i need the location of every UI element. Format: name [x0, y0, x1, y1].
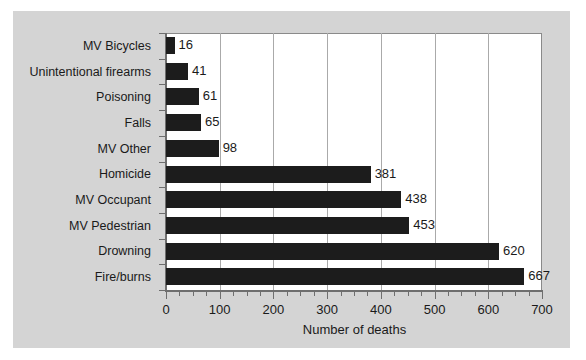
bar-value-label: 65 — [205, 112, 219, 132]
bar — [166, 37, 175, 54]
category-label: Fire/burns — [95, 269, 151, 285]
bar-value-label: 61 — [203, 86, 217, 106]
x-axis-tick-minor — [260, 292, 261, 296]
chart-figure: 1641616598381438453620667 MV BicyclesUni… — [13, 11, 570, 348]
y-axis-tick — [159, 290, 166, 291]
bar — [166, 166, 371, 183]
y-axis-tick — [159, 136, 166, 137]
x-axis-tick-label: 500 — [415, 301, 455, 319]
category-label: Unintentional firearms — [29, 64, 151, 80]
bar — [166, 63, 188, 80]
y-axis-tick — [159, 33, 166, 34]
x-axis-tick-minor — [515, 292, 516, 296]
y-axis-tick — [159, 264, 166, 265]
x-axis-tick-label: 700 — [522, 301, 562, 319]
x-axis-tick-minor — [341, 292, 342, 296]
x-axis-tick-minor — [300, 292, 301, 296]
x-axis-tick-label: 300 — [307, 301, 347, 319]
bar-value-label: 438 — [405, 189, 427, 209]
x-axis-tick-minor — [247, 292, 248, 296]
category-label: Homicide — [99, 166, 151, 182]
bar — [166, 114, 201, 131]
bar-value-label: 667 — [528, 266, 550, 286]
x-axis-tick-minor — [421, 292, 422, 296]
y-axis-tick — [159, 162, 166, 163]
bar-row: 438 — [166, 187, 542, 213]
x-axis-tick-major — [220, 292, 221, 299]
bar-row: 98 — [166, 136, 542, 162]
bar-value-label: 41 — [192, 61, 206, 81]
x-axis-tick-label: 400 — [361, 301, 401, 319]
bar — [166, 268, 524, 285]
x-axis-tick-minor — [461, 292, 462, 296]
x-axis-tick-label: 100 — [200, 301, 240, 319]
x-axis-tick-major — [381, 292, 382, 299]
bar-value-label: 16 — [179, 35, 193, 55]
x-axis-tick-label: 600 — [468, 301, 508, 319]
y-axis-tick — [159, 59, 166, 60]
category-label: Drowning — [98, 243, 151, 259]
x-axis-tick-label: 0 — [146, 301, 186, 319]
bar — [166, 140, 219, 157]
x-axis-tick-minor — [233, 292, 234, 296]
x-axis-tick-minor — [193, 292, 194, 296]
bar-row: 61 — [166, 84, 542, 110]
x-axis-tick-minor — [287, 292, 288, 296]
x-axis-tick-major — [435, 292, 436, 299]
category-label: Falls — [125, 115, 151, 131]
bar-row: 453 — [166, 213, 542, 239]
bar-value-label: 453 — [413, 215, 435, 235]
x-axis-tick-minor — [529, 292, 530, 296]
category-label: MV Occupant — [75, 192, 151, 208]
bar — [166, 243, 499, 260]
category-label: Poisoning — [96, 89, 151, 105]
bar — [166, 88, 199, 105]
bar — [166, 191, 401, 208]
bar — [166, 217, 409, 234]
y-axis-tick — [159, 239, 166, 240]
bar-value-label: 381 — [375, 164, 397, 184]
x-axis-tick-label: 200 — [253, 301, 293, 319]
category-label: MV Pedestrian — [69, 218, 151, 234]
category-label: MV Bicycles — [83, 38, 151, 54]
x-axis-tick-minor — [502, 292, 503, 296]
x-axis-tick-minor — [179, 292, 180, 296]
x-axis-tick-major — [327, 292, 328, 299]
x-axis-tick-major — [542, 292, 543, 299]
y-axis-tick — [159, 213, 166, 214]
x-axis-tick-major — [273, 292, 274, 299]
x-axis-tick-minor — [394, 292, 395, 296]
category-labels: MV BicyclesUnintentional firearmsPoisoni… — [13, 33, 159, 290]
y-axis-tick — [159, 187, 166, 188]
x-axis-tick-major — [488, 292, 489, 299]
bar-row: 16 — [166, 33, 542, 59]
bar-row: 667 — [166, 264, 542, 290]
x-axis-tick-minor — [367, 292, 368, 296]
x-axis-tick-minor — [448, 292, 449, 296]
x-axis-title: Number of deaths — [166, 322, 543, 337]
bar-row: 41 — [166, 59, 542, 85]
x-axis-tick-major — [166, 292, 167, 299]
x-axis-tick-minor — [314, 292, 315, 296]
bar-row: 620 — [166, 239, 542, 265]
bar-value-label: 620 — [503, 241, 525, 261]
x-axis-tick-minor — [408, 292, 409, 296]
bar-row: 65 — [166, 110, 542, 136]
y-axis-tick — [159, 110, 166, 111]
x-axis-tick-minor — [206, 292, 207, 296]
x-axis-tick-minor — [475, 292, 476, 296]
bar-value-label: 98 — [223, 138, 237, 158]
bar-row: 381 — [166, 162, 542, 188]
y-axis-tick — [159, 84, 166, 85]
category-label: MV Other — [98, 141, 152, 157]
x-axis-tick-minor — [354, 292, 355, 296]
